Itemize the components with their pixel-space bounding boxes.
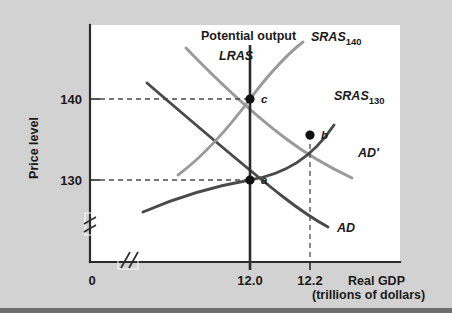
aggregate-demand-supply-figure: c a b Potential output LRAS SRAS140 SRAS…: [0, 0, 452, 331]
origin-label: 0: [88, 273, 95, 288]
y-tick-label-140: 140: [60, 92, 82, 107]
curve-label-sras-130-text: SRAS: [334, 89, 369, 103]
curve-label-ad: AD: [336, 221, 355, 235]
equilibrium-point-c: [245, 94, 254, 103]
curve-label-sras-130-sub: 130: [369, 95, 385, 106]
curve-label-sras-140-text: SRAS: [311, 30, 346, 44]
y-tick-label-130: 130: [60, 173, 82, 188]
bottom-divider-rule: [0, 308, 452, 313]
equilibrium-point-b: [305, 130, 314, 139]
x-axis-subtitle: (trillions of dollars): [312, 288, 425, 302]
curve-label-sras-140-sub: 140: [346, 36, 362, 47]
annotation-potential-output: Potential output: [201, 29, 297, 43]
curve-label-lras: LRAS: [219, 49, 254, 63]
point-label-c: c: [261, 93, 268, 105]
x-tick-label-12-2: 12.2: [297, 273, 322, 288]
x-tick-label-12-0: 12.0: [237, 273, 262, 288]
curve-label-ad-prime: AD': [357, 146, 380, 160]
x-axis-title: Real GDP: [348, 274, 405, 288]
equilibrium-point-a: [245, 175, 254, 184]
point-label-a: a: [261, 174, 268, 186]
page-bottom-margin: [0, 313, 452, 331]
point-label-b: b: [321, 129, 328, 141]
y-axis-title: Price level: [27, 117, 41, 179]
